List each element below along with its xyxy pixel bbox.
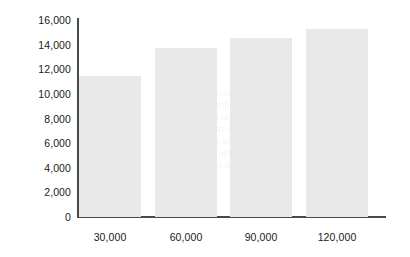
x-axis-tick-label: 30,000: [94, 231, 127, 243]
x-axis-tick-label: 90,000: [245, 231, 278, 243]
x-axis-tick-label: 120,000: [318, 231, 357, 243]
x-axis-tick-labels: 30,000 60,000 90,000 120,000: [0, 0, 410, 257]
bar-chart-figure: the population of a region and the numbe…: [0, 0, 410, 257]
x-axis-tick-label: 60,000: [170, 231, 203, 243]
